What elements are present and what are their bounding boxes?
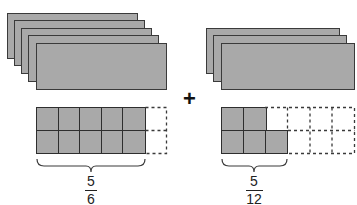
right-fraction-label: 5 12	[242, 174, 266, 205]
right-denominator: 12	[242, 192, 266, 205]
right-numerator: 5	[242, 174, 266, 189]
right-brace	[222, 159, 287, 172]
left-empty-cell-outline	[146, 108, 167, 154]
dashed-outlines-and-braces	[0, 0, 357, 205]
left-fraction-label: 5 6	[80, 174, 102, 205]
left-brace	[37, 159, 145, 172]
left-denominator: 6	[80, 192, 102, 205]
left-numerator: 5	[80, 174, 102, 189]
